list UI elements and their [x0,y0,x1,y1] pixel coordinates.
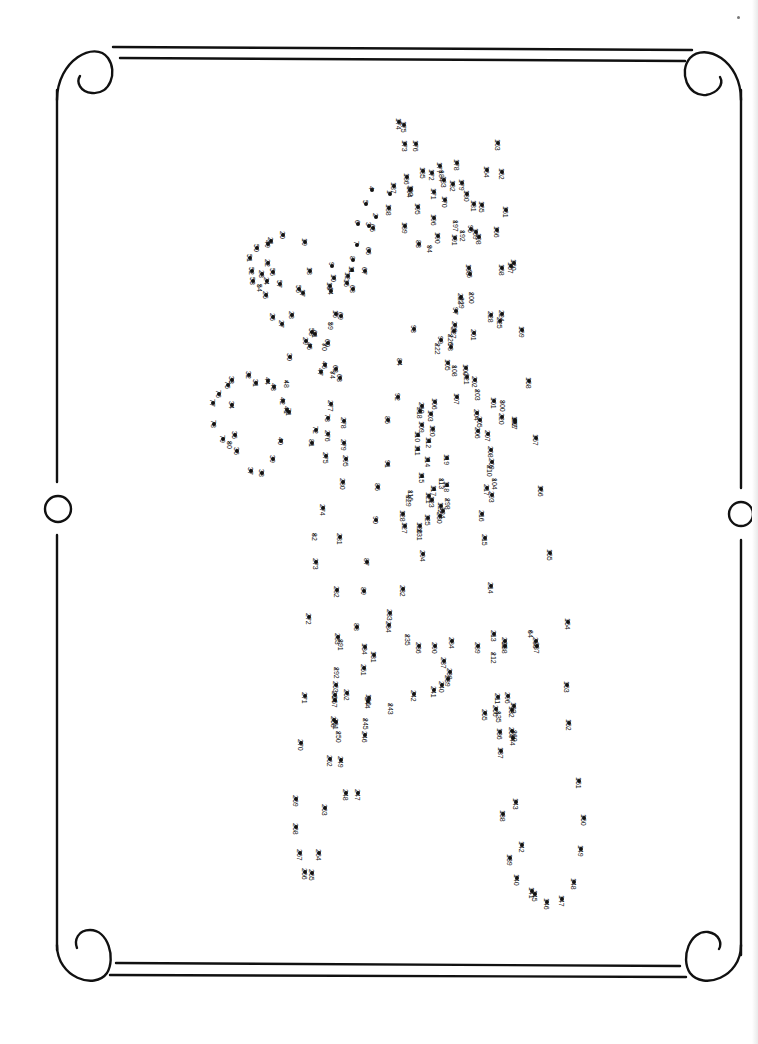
dot-number: 235 [404,634,411,646]
dot-number: 295 [342,455,349,467]
dot-number: 240 [438,681,445,693]
dot-number: 40 [277,437,284,445]
dot-number: 293 [488,491,495,503]
dot-number: 6 [354,220,361,224]
dot-number: 156 [537,485,544,497]
dot-number: 255 [481,709,488,721]
dot-number: 87 [363,558,370,566]
dot-number: 90 [372,516,379,524]
dot-number: 180 [463,190,470,202]
dot-number: 134 [361,643,368,655]
dot-number: 205 [476,416,483,428]
dot-number: 111 [414,445,421,456]
dot-puzzle-field: 174175176173163162164178177172185×184183… [0,0,758,1044]
dot-number: 75 [224,381,231,389]
dot-number: 173 [401,140,408,152]
dot-number: 206 [474,427,481,439]
dot-number: 10 [330,274,337,282]
dot-number: 252 [343,689,350,701]
dot-number: 154 [564,618,571,630]
dot-number: 272 [305,613,312,625]
dot-number: 101 [490,397,497,409]
dot-number: 103 [427,410,434,422]
dot-number: 233 [386,609,393,621]
dot-number: 84 [396,358,403,366]
dot-number: 215 [481,534,488,546]
dot-number: 172 [428,169,435,181]
dot-number: 63 [336,374,343,382]
dot-number: 289 [474,642,481,654]
dot-number: 186 [403,173,410,185]
dot-number: 20 [279,231,286,239]
dot-number: 81 [308,439,315,447]
dot-number: 287 [533,642,540,654]
dot-number: 70 [321,343,328,351]
dot-number: 181 [470,200,477,212]
dot-number: 243 [387,703,394,715]
dot-number: 125 [424,514,431,526]
dot-number: 47 [317,368,324,376]
dot-number: 237 [440,657,447,669]
dot-number: 114 [424,456,431,467]
dot-number: 166 [493,226,500,238]
dot-number: 182 [449,180,456,192]
dot-number: 77 [209,399,216,407]
dot-number: 50 [253,244,260,252]
dot-number: 30 [286,353,293,361]
dot-number: 216 [478,510,485,522]
dot-number: 48 [283,380,290,388]
dot-number: 281 [336,533,343,545]
dot-number: 277 [327,400,334,412]
dot-number: 92 [394,393,401,401]
dot-number: 230 [436,512,443,524]
dot-number: 94 [426,245,433,253]
dot-number: 190 [434,232,441,244]
dot-number: 179 [458,179,465,191]
dot-number: 78 [210,420,217,428]
dot-number: 22 [264,259,271,267]
dot-number: 212 [490,652,497,664]
dot-number: 76 [215,390,222,398]
dot-number: 27 [278,320,285,328]
dot-number: 294 [419,550,426,562]
dot-number: 263 [321,804,328,816]
dot-number: 155 [546,549,553,561]
dot-number: 220 [498,413,505,425]
dot-number: 297 [511,418,518,430]
dot-number: 244 [364,697,371,709]
dot-number: 162 [498,168,505,180]
dot-number: 37 [247,467,254,475]
dot-number: 104 [491,478,498,490]
dot-number: 185 [419,167,426,179]
dot-number: 65 [369,224,376,232]
dot-number: 61 [311,330,318,338]
dot-number: 140 [513,874,520,886]
dot-number: 251 [360,664,367,676]
dot-number: 57 [276,280,283,288]
dot-number: 165 [478,201,485,213]
dot-number: 153 [563,681,570,693]
dot-number: 7 [353,241,360,245]
dot-number: 171 [430,188,437,200]
dot-number: 242 [410,690,417,702]
dot-number: 145 [531,890,538,902]
dot-number: 24 [263,277,270,285]
dot-number: 31 [252,379,259,387]
dot-number: 9 [328,262,335,266]
dot-number: 59 [327,322,334,330]
dot-number: 273 [312,558,319,570]
dot-number: 74 [329,371,336,379]
dot-number: 52 [248,267,255,275]
dot-number: 229 [458,297,465,309]
dot-number: 19 [301,238,308,246]
dot-number: 68 [349,285,356,293]
dot-number: 144 [509,734,516,746]
dot-number: 88 [353,623,360,631]
dot-number: 203 [474,389,481,401]
dot-number: 196 [430,214,437,226]
dot-number: 2 [372,213,379,217]
dot-number: 18 [306,267,313,275]
dot-number: 112 [425,437,432,448]
dot-number: 152 [565,719,572,731]
dot-number: 4 [368,186,375,190]
